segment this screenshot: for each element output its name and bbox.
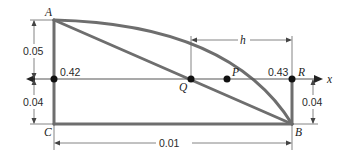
label-h: h: [240, 34, 246, 46]
diagram-svg: x: [0, 0, 351, 158]
point-R-dot: [289, 76, 296, 83]
dimension-lines: [30, 20, 318, 150]
point-left-dot: [51, 76, 58, 83]
chord-AB: [54, 20, 292, 124]
arrow-up-icon: [32, 20, 37, 26]
dim-right-lower: 0.04: [302, 96, 323, 108]
point-P-dot: [224, 76, 231, 83]
label-C: C: [44, 126, 52, 138]
label-B: B: [295, 126, 302, 138]
arrow-left-icon: [191, 38, 197, 43]
arrow-right-icon: [286, 38, 292, 43]
value-0.43: 0.43: [268, 66, 289, 78]
dim-bottom-width: 0.01: [159, 137, 180, 149]
dim-left-upper: 0.05: [23, 45, 44, 57]
point-Q-dot: [188, 76, 195, 83]
label-P: P: [231, 66, 239, 78]
value-0.42: 0.42: [60, 66, 81, 78]
arrow-right-icon: [286, 141, 292, 146]
label-A: A: [44, 6, 53, 18]
label-R: R: [297, 66, 305, 78]
dim-left-lower: 0.04: [23, 96, 44, 108]
axis-right-arrow-icon: [314, 75, 323, 83]
label-Q: Q: [179, 81, 188, 93]
axis-label-x: x: [326, 73, 333, 85]
arrow-down-icon: [311, 118, 316, 124]
diagram-canvas: x: [0, 0, 351, 158]
arrow-left-icon: [54, 141, 60, 146]
arrow-down-icon: [32, 118, 37, 124]
structure: [54, 20, 292, 124]
